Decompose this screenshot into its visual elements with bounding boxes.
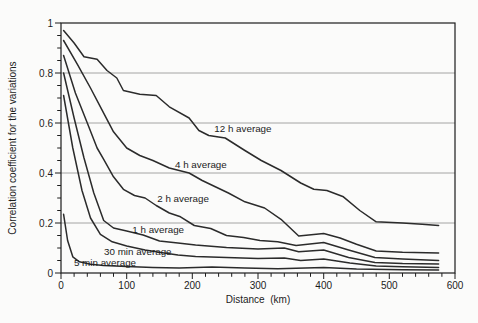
x-axis-title: Distance (km) — [226, 294, 290, 305]
series-label-4-h-average: 4 h average — [175, 159, 227, 170]
series-labels-layer: 12 h average4 h average2 h average1 h av… — [74, 123, 272, 268]
series-layer — [64, 31, 439, 271]
grid-layer — [61, 73, 455, 223]
figure-correlation-vs-distance: 12 h average4 h average2 h average1 h av… — [0, 0, 478, 323]
series-label-5-min-average: 5 min average — [74, 257, 137, 268]
y-axis-title: Correlation coefficient for the variatio… — [7, 61, 18, 234]
series-label-2-h-average: 2 h average — [157, 193, 209, 204]
series-line-1-h-average — [64, 73, 439, 264]
series-line-30-min-average — [64, 96, 439, 268]
x-tick-label: 500 — [381, 280, 398, 291]
y-tick-label: 1 — [47, 18, 53, 29]
plot-border — [61, 23, 455, 273]
x-tick-label: 600 — [447, 280, 464, 291]
tick-layer — [55, 23, 455, 279]
y-tick-label: 0.4 — [39, 168, 53, 179]
x-tick-label: 200 — [184, 280, 201, 291]
y-tick-label: 0 — [47, 268, 53, 279]
series-label-30-min-average: 30 min average — [104, 246, 172, 257]
series-line-4-h-average — [64, 41, 439, 254]
x-tick-label: 400 — [315, 280, 332, 291]
x-tick-label: 100 — [118, 280, 135, 291]
series-label-12-h-average: 12 h average — [214, 123, 272, 134]
x-tick-label: 0 — [58, 280, 64, 291]
y-tick-label: 0.8 — [39, 68, 53, 79]
correlation-vs-distance-chart: 12 h average4 h average2 h average1 h av… — [0, 0, 478, 323]
y-tick-label: 0.2 — [39, 218, 53, 229]
x-tick-label: 300 — [250, 280, 267, 291]
series-label-1-h-average: 1 h average — [132, 224, 184, 235]
y-tick-label: 0.6 — [39, 118, 53, 129]
